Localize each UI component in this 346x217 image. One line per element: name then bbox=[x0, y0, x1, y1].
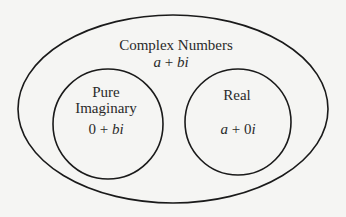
pure-imaginary-title-line2: Imaginary bbox=[75, 100, 137, 116]
real-title: Real bbox=[223, 87, 251, 103]
complex-numbers-form: a + bi bbox=[153, 54, 188, 70]
pure-imaginary-form: 0 + bi bbox=[88, 121, 123, 137]
complex-numbers-title: Complex Numbers bbox=[119, 37, 233, 53]
venn-diagram: Complex Numbers a + bi Pure Imaginary 0 … bbox=[0, 0, 346, 217]
pure-imaginary-title-line1: Pure bbox=[92, 84, 120, 100]
real-form: a + 0i bbox=[220, 121, 255, 137]
